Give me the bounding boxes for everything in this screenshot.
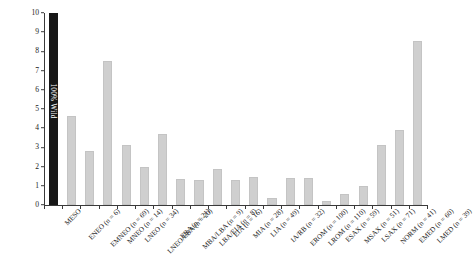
x-axis-tick-mark bbox=[336, 205, 337, 209]
x-axis-tick-mark bbox=[153, 205, 154, 209]
x-axis-tick-label: MESO bbox=[64, 208, 83, 227]
y-axis-tick: 7 bbox=[35, 67, 44, 75]
y-axis-tick-mark bbox=[41, 166, 44, 167]
x-axis-tick-mark bbox=[62, 205, 63, 209]
bar-annotation-label: 100% Wild bbox=[49, 84, 58, 119]
y-axis-tick-mark bbox=[41, 70, 44, 71]
bar bbox=[194, 180, 203, 205]
bar bbox=[322, 201, 331, 205]
y-axis-tick-mark bbox=[41, 109, 44, 110]
x-axis-tick-mark bbox=[263, 205, 264, 209]
y-axis-tick: 9 bbox=[35, 28, 44, 36]
bar bbox=[176, 179, 185, 205]
y-axis-tick: 5 bbox=[35, 105, 44, 113]
bar bbox=[413, 41, 422, 205]
bar bbox=[103, 61, 112, 205]
y-axis-tick: 8 bbox=[35, 48, 44, 56]
x-axis-tick-label: EBA (n = 21) bbox=[179, 208, 212, 241]
x-axis-tick-mark bbox=[135, 205, 136, 209]
bar bbox=[213, 169, 222, 205]
x-axis-tick-mark bbox=[245, 205, 246, 209]
y-axis-tick-mark bbox=[41, 13, 44, 14]
y-axis-tick-mark bbox=[41, 185, 44, 186]
y-axis-tick-mark bbox=[41, 128, 44, 129]
x-axis-tick-mark bbox=[299, 205, 300, 209]
y-axis-tick: 10 bbox=[31, 9, 44, 17]
y-axis-tick: 2 bbox=[35, 163, 44, 171]
x-axis-tick-mark bbox=[99, 205, 100, 209]
bar: 100% Wild bbox=[49, 13, 58, 205]
bar bbox=[231, 180, 240, 205]
bar bbox=[140, 167, 149, 205]
bar bbox=[249, 177, 258, 205]
y-axis-tick-mark bbox=[41, 51, 44, 52]
x-axis-tick-mark bbox=[190, 205, 191, 209]
bar bbox=[67, 116, 76, 205]
y-axis-tick: 3 bbox=[35, 144, 44, 152]
bar bbox=[122, 145, 131, 205]
x-axis-tick-mark bbox=[427, 205, 428, 209]
bar bbox=[377, 145, 386, 205]
y-axis-tick-label: 10 bbox=[31, 9, 41, 17]
bar bbox=[395, 130, 404, 205]
y-axis-tick: 1 bbox=[35, 182, 44, 190]
x-axis-tick-mark bbox=[354, 205, 355, 209]
x-axis-line bbox=[44, 205, 428, 206]
bar bbox=[158, 134, 167, 205]
y-axis-tick-mark bbox=[41, 32, 44, 33]
x-axis-tick-mark bbox=[226, 205, 227, 209]
bar bbox=[85, 151, 94, 205]
x-axis-tick-mark bbox=[391, 205, 392, 209]
bar bbox=[267, 198, 276, 205]
bar bbox=[304, 178, 313, 205]
y-axis-tick-mark bbox=[41, 89, 44, 90]
bar bbox=[340, 194, 349, 205]
x-axis-tick-mark bbox=[44, 205, 45, 209]
bar bbox=[286, 178, 295, 205]
x-axis-tick-mark bbox=[80, 205, 81, 209]
bar bbox=[359, 186, 368, 205]
y-axis-tick: 6 bbox=[35, 86, 44, 94]
y-axis-tick: 0 bbox=[35, 201, 44, 209]
plot-area: 012345678910 100% Wild bbox=[44, 13, 427, 205]
y-axis-tick-mark bbox=[41, 147, 44, 148]
y-axis-tick: 4 bbox=[35, 124, 44, 132]
